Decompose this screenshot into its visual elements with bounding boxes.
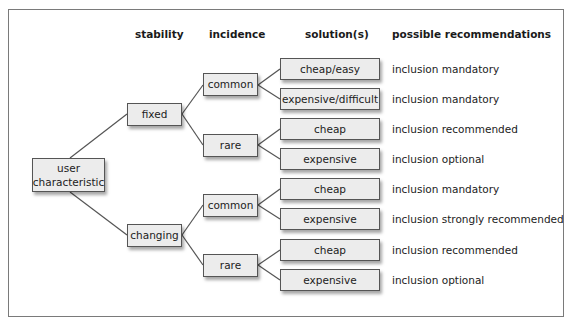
- header-incidence: incidence: [209, 28, 265, 40]
- solution-node-2: expensive/difficult: [280, 88, 380, 110]
- recommendation-2: inclusion mandatory: [392, 88, 499, 110]
- recommendation-5: inclusion mandatory: [392, 178, 499, 200]
- solution-node-6: expensive: [280, 208, 380, 230]
- recommendation-3: inclusion recommended: [392, 118, 518, 140]
- header-stability: stability: [135, 28, 184, 40]
- solution-node-4: expensive: [280, 148, 380, 170]
- solution-node-1: cheap/easy: [280, 58, 380, 80]
- root-label-line1: user: [57, 161, 80, 175]
- incidence-node-fixed-common: common: [203, 73, 258, 96]
- recommendation-7: inclusion recommended: [392, 239, 518, 261]
- recommendation-4: inclusion optional: [392, 148, 484, 170]
- recommendation-1: inclusion mandatory: [392, 58, 499, 80]
- root-label-line2: characteristic: [33, 175, 104, 189]
- incidence-node-fixed-rare: rare: [203, 134, 258, 157]
- header-solutions: solution(s): [305, 28, 369, 40]
- root-node-user-characteristic: user characteristic: [32, 158, 105, 192]
- solution-node-7: cheap: [280, 239, 380, 261]
- solution-node-3: cheap: [280, 118, 380, 140]
- incidence-node-changing-rare: rare: [203, 254, 258, 277]
- recommendation-8: inclusion optional: [392, 269, 484, 291]
- header-recommendations: possible recommendations: [392, 28, 551, 40]
- stability-node-changing: changing: [127, 224, 182, 247]
- incidence-node-changing-common: common: [203, 194, 258, 217]
- stability-node-fixed: fixed: [127, 103, 182, 126]
- solution-node-5: cheap: [280, 178, 380, 200]
- solution-node-8: expensive: [280, 269, 380, 291]
- recommendation-6: inclusion strongly recommended: [392, 208, 564, 230]
